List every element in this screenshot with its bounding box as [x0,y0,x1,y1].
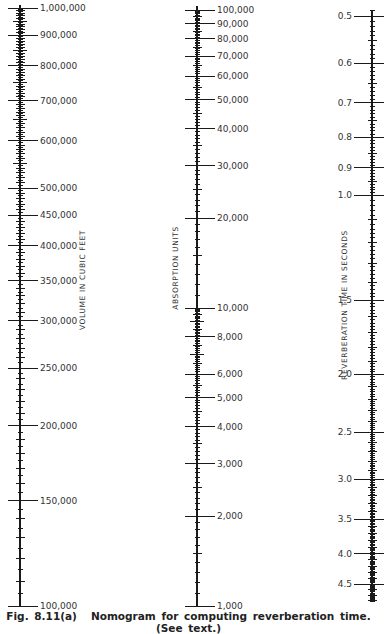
tick-label: 0.6 [338,58,353,68]
tick-label: 4.5 [338,579,352,589]
tick-label: 3.5 [338,514,352,524]
tick-label: 0.9 [338,163,353,173]
tick-label: 250,000 [40,363,77,373]
tick-label: 600,000 [40,136,77,146]
tick-label: 70,000 [217,51,249,61]
tick-label: 50,000 [217,95,249,105]
tick-label: 4.0 [338,549,353,559]
tick-label: 1,000,000 [40,3,86,13]
absorption-axis: 100,00090,00080,00070,00060,00050,00040,… [171,5,254,611]
volume-axis: 1,000,000900,000800,000700,000600,000500… [8,3,87,611]
tick-label: 3,000 [217,459,243,469]
caption-text: Nomogram for computing reverberation tim… [91,610,371,622]
tick-label: 700,000 [40,96,77,106]
tick-label: 90,000 [217,19,249,29]
tick-label: 900,000 [40,30,77,40]
tick-label: 200,000 [40,421,77,431]
tick-label: 80,000 [217,34,249,44]
tick-label: 2.5 [338,427,352,437]
tick-label: 10,000 [217,303,249,313]
caption-note: (See text.) [156,622,221,634]
tick-label: 350,000 [40,276,77,286]
tick-label: 2,000 [217,511,243,521]
absorption-axis-title: ABSORPTION UNITS [171,226,180,310]
tick-label: 0.8 [338,132,353,142]
tick-label: 1.0 [338,190,353,200]
tick-label: 30,000 [217,161,249,171]
tick-label: 6,000 [217,369,243,379]
tick-label: 4,000 [217,422,243,432]
tick-label: 3.0 [338,474,353,484]
tick-label: 60,000 [217,71,249,81]
tick-label: 8,000 [217,332,243,342]
tick-label: 800,000 [40,61,77,71]
reverberation-time-axis: 0.50.60.70.80.91.01.52.02.53.03.54.04.5R… [338,10,384,602]
tick-label: 0.7 [338,98,352,108]
tick-label: 150,000 [40,496,77,506]
figure-label: Fig. 8.11(a) [6,610,77,622]
figure-caption: Fig. 8.11(a)Nomogram for computing rever… [0,610,391,634]
tick-label: 450,000 [40,210,77,220]
tick-label: 5,000 [217,393,243,403]
tick-label: 0.5 [338,11,352,21]
reverberation-axis-title: REVERBERATION TIME IN SECONDS [340,230,349,380]
tick-label: 300,000 [40,316,77,326]
tick-label: 20,000 [217,213,249,223]
tick-label: 100,000 [217,5,254,15]
volume-axis-title: VOLUME IN CUBIC FEET [78,230,87,330]
tick-label: 500,000 [40,183,77,193]
tick-label: 400,000 [40,241,77,251]
tick-label: 40,000 [217,124,249,134]
